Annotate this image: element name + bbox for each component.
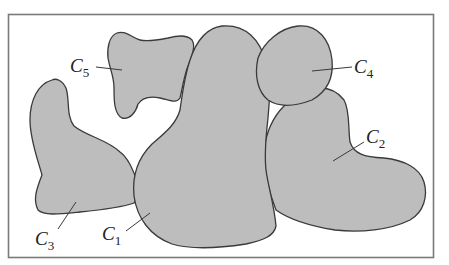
label-c4: C4 (354, 56, 374, 81)
region-diagram: C5 C4 C2 C3 C1 (0, 0, 449, 265)
label-c2: C2 (366, 126, 385, 151)
region-c4 (256, 26, 332, 105)
label-c5: C5 (70, 55, 89, 80)
label-c1: C1 (102, 223, 121, 248)
region-c2 (264, 88, 425, 231)
label-c3: C3 (35, 228, 54, 253)
